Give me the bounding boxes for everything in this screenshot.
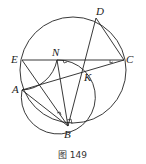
label-K: K (83, 71, 92, 83)
segment-AB (22, 90, 68, 126)
geometry-figure: D E N C K A B 图 149 (0, 0, 146, 164)
figure-caption: 图 149 (58, 150, 87, 160)
segment-EB (22, 60, 68, 126)
label-C: C (126, 53, 134, 65)
label-N: N (51, 46, 60, 58)
label-D: D (95, 5, 104, 17)
label-A: A (11, 83, 19, 95)
segment-AC (22, 60, 124, 90)
segment-NB (57, 60, 68, 126)
label-E: E (10, 53, 18, 65)
segment-DC (96, 18, 124, 60)
label-B: B (64, 128, 71, 140)
